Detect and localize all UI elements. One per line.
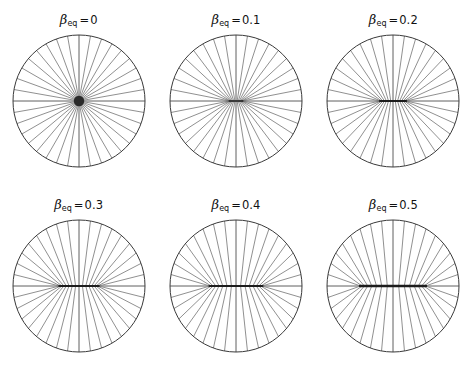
equals-sign: =	[231, 13, 241, 27]
spoke	[225, 101, 235, 166]
spoke	[174, 263, 211, 286]
spoke	[406, 101, 456, 124]
spoke	[331, 286, 362, 309]
equals-sign: =	[388, 198, 398, 212]
beta-subscript: eq	[62, 204, 72, 213]
spoke	[415, 235, 436, 286]
panel-beta-0p2: βeq=0.2	[315, 0, 472, 185]
spoke	[174, 78, 230, 101]
beta-value: 0.2	[399, 13, 418, 27]
spoke	[424, 286, 455, 309]
panel-beta-0p3-plot	[9, 216, 149, 356]
spoke	[396, 36, 405, 101]
spoke	[371, 286, 382, 348]
equals-sign: =	[74, 198, 84, 212]
spoke	[402, 50, 436, 101]
beta-symbol: β	[212, 12, 220, 27]
spoke	[225, 286, 232, 351]
spoke	[328, 90, 380, 101]
figure-canvas: βeq=0βeq=0.1βeq=0.2βeq=0.3βeq=0.4βeq=0.5	[0, 0, 472, 370]
spoke	[56, 286, 72, 348]
spoke	[382, 286, 388, 351]
spoke	[241, 221, 248, 286]
spoke	[237, 101, 247, 166]
panel-beta-0p1-plot	[166, 31, 306, 171]
spoke	[194, 50, 232, 101]
panel-beta-0p5-plot	[323, 216, 463, 356]
panel-grid: βeq=0βeq=0.1βeq=0.2βeq=0.3βeq=0.4βeq=0.5	[0, 0, 472, 370]
panel-beta-0-spoke-diagram	[9, 31, 149, 171]
spoke	[400, 101, 426, 158]
spoke	[331, 101, 381, 124]
spoke	[171, 275, 210, 286]
spoke	[96, 286, 136, 319]
spoke	[85, 286, 101, 348]
panel-beta-0p5-spoke-diagram	[323, 216, 463, 356]
beta-value: 0.5	[399, 198, 418, 212]
spoke	[241, 101, 287, 143]
spoke	[174, 286, 211, 309]
beta-value: 0.1	[242, 13, 261, 27]
spoke	[67, 286, 75, 351]
spoke	[98, 275, 144, 286]
spoke	[171, 286, 210, 297]
spoke	[328, 101, 380, 112]
spoke	[14, 275, 60, 286]
panel-beta-0p4-plot	[166, 216, 306, 356]
spoke	[351, 50, 385, 101]
spoke	[382, 101, 391, 166]
spoke	[174, 101, 230, 124]
spoke	[261, 263, 298, 286]
spoke	[396, 101, 405, 166]
panel-beta-0p4-spoke-diagram	[166, 216, 306, 356]
spoke	[245, 286, 259, 348]
spoke	[82, 286, 90, 351]
spoke	[415, 286, 436, 337]
spoke	[360, 101, 386, 158]
panel-beta-0p3: βeq=0.3	[0, 185, 157, 370]
panel-beta-0p4-title: βeq=0.4	[212, 198, 261, 213]
panel-beta-0p3-spoke-diagram	[9, 216, 149, 356]
spoke	[351, 286, 372, 337]
spoke	[331, 78, 381, 101]
beta-value: 0	[90, 13, 97, 27]
spoke	[241, 286, 248, 351]
spoke	[406, 78, 456, 101]
spoke	[241, 59, 287, 101]
spoke	[405, 224, 416, 286]
equals-sign: =	[231, 198, 241, 212]
panel-beta-0p4: βeq=0.4	[157, 185, 314, 370]
panel-beta-0p1-spoke-diagram	[166, 31, 306, 171]
equals-sign: =	[79, 13, 89, 27]
spoke	[351, 101, 385, 152]
spoke	[194, 101, 232, 152]
spoke	[14, 286, 60, 297]
spoke	[82, 221, 90, 286]
equals-sign: =	[388, 13, 398, 27]
spoke	[249, 229, 269, 286]
beta-symbol: β	[212, 197, 220, 212]
panel-beta-0p5-title: βeq=0.5	[369, 198, 418, 213]
spoke	[400, 44, 426, 101]
panel-beta-0p2-spoke-diagram	[323, 31, 463, 171]
spoke	[371, 39, 389, 101]
beta-value: 0.4	[242, 198, 261, 212]
spoke	[371, 224, 382, 286]
spoke	[185, 101, 231, 143]
spoke	[398, 39, 416, 101]
spoke	[424, 263, 455, 286]
spoke	[98, 286, 144, 297]
spoke	[382, 36, 391, 101]
spoke	[21, 253, 61, 286]
spoke	[21, 286, 61, 319]
spoke	[406, 90, 458, 101]
beta-value: 0.3	[85, 198, 104, 212]
panel-beta-0p2-title: βeq=0.2	[369, 13, 418, 28]
panel-beta-0p2-plot	[323, 31, 463, 171]
beta-subscript: eq	[67, 19, 77, 28]
panel-beta-0p1-title: βeq=0.1	[212, 13, 261, 28]
panel-beta-0p1: βeq=0.1	[157, 0, 314, 185]
beta-subscript: eq	[219, 19, 229, 28]
spoke	[406, 101, 458, 112]
panel-beta-0p5: βeq=0.5	[315, 185, 472, 370]
